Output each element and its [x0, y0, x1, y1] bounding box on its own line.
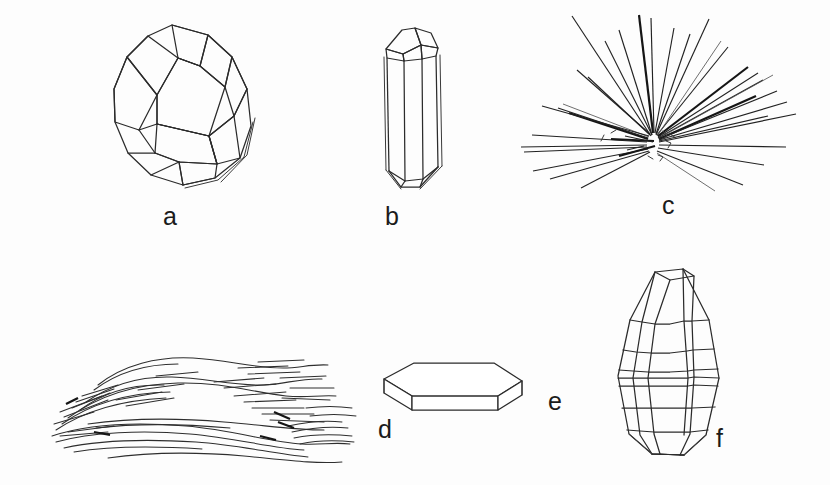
panel-label-a: a	[163, 204, 177, 229]
panel-e-tabular-crystal: e	[370, 355, 550, 425]
crystal-drawing-c	[515, 5, 815, 200]
crystal-drawing-e	[370, 355, 550, 425]
panel-d-fibrous-aggregate: d	[38, 340, 368, 465]
crystal-drawing-a	[95, 12, 280, 197]
panel-label-e: e	[548, 389, 562, 414]
needle-bundle	[521, 15, 796, 191]
panel-f-barrel-crystal: f	[600, 258, 750, 463]
crystal-drawing-d	[38, 340, 368, 465]
panel-b-prismatic-crystal: b	[365, 15, 475, 200]
panel-label-c: c	[662, 193, 675, 218]
panel-a-equant-crystal: a	[95, 12, 280, 197]
crystal-drawing-f	[600, 258, 750, 463]
panel-label-b: b	[385, 204, 399, 229]
panel-label-f: f	[716, 426, 723, 451]
crystal-drawing-b	[365, 15, 475, 200]
crystal-habit-figure-plate: a b	[0, 0, 830, 485]
panel-c-acicular-aggregate: c	[515, 5, 815, 200]
fibre-bundle	[52, 358, 356, 463]
